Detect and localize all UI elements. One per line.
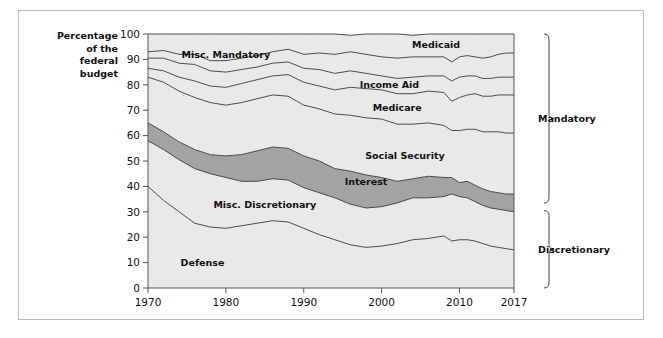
bracket-label-discretionary: Discretionary [538, 244, 611, 255]
x-tick-label-1970: 1970 [135, 296, 162, 308]
x-tick-label-2010: 2010 [446, 296, 473, 308]
x-tick-label-1990: 1990 [290, 296, 317, 308]
y-tick-label-40: 40 [127, 180, 140, 192]
y-tick-label-100: 100 [120, 28, 140, 40]
series-label-misc-discretionary: Misc. Discretionary [213, 199, 317, 210]
budget-area-chart: 0102030405060708090100197019801990200020… [19, 11, 645, 321]
series-label-medicare: Medicare [373, 102, 422, 113]
y-tick-label-80: 80 [127, 79, 140, 91]
x-tick-label-2000: 2000 [368, 296, 395, 308]
series-label-misc-mandatory: Misc. Mandatory [182, 49, 272, 60]
series-label-social-security: Social Security [365, 150, 445, 161]
series-label-interest: Interest [345, 176, 388, 187]
y-tick-label-50: 50 [127, 155, 140, 167]
y-axis-title-line-1: Percentage [57, 30, 118, 41]
x-tick-label-1980: 1980 [213, 296, 240, 308]
series-label-defense: Defense [181, 257, 225, 268]
y-tick-label-70: 70 [127, 104, 140, 116]
y-tick-label-20: 20 [127, 231, 140, 243]
series-label-medicaid: Medicaid [412, 39, 460, 50]
y-tick-label-0: 0 [133, 282, 140, 294]
y-tick-label-60: 60 [127, 129, 140, 141]
series-label-income-aid: Income Aid [360, 79, 420, 90]
bracket-label-mandatory: Mandatory [538, 113, 597, 124]
figure-frame: 0102030405060708090100197019801990200020… [18, 10, 644, 320]
y-tick-label-30: 30 [127, 206, 140, 218]
x-tick-label-2017: 2017 [501, 296, 528, 308]
y-tick-label-10: 10 [127, 256, 140, 268]
y-axis-title-line-3: federal [80, 55, 118, 66]
y-axis-title-line-4: budget [80, 68, 119, 79]
y-tick-label-90: 90 [127, 53, 140, 65]
y-axis-title-line-2: of the [86, 43, 118, 54]
